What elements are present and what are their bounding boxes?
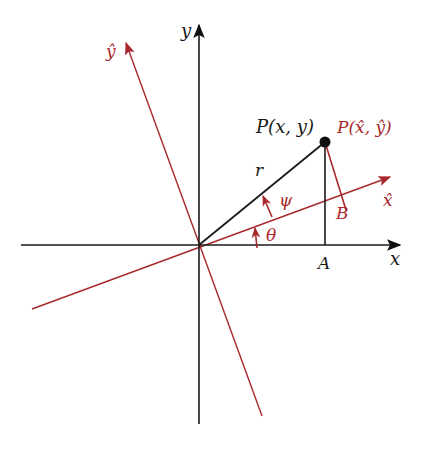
- x-axis-label: x: [390, 248, 400, 269]
- radius-label: r: [255, 160, 264, 180]
- radius-line: [199, 142, 325, 245]
- y-hat-axis-label: ŷ: [105, 41, 116, 61]
- psi-label: ψ: [279, 190, 293, 210]
- foot-B-label: B: [335, 203, 349, 223]
- x-hat-axis-label: x̂: [383, 190, 393, 210]
- rotation-of-axes-diagram: y x ŷ x̂ P(x, y) P(x̂, ŷ) r ψ θ B A: [0, 0, 422, 454]
- y-axis-label: y: [180, 20, 192, 41]
- theta-label: θ: [266, 225, 276, 245]
- point-rotated-label: P(x̂, ŷ): [336, 117, 392, 137]
- foot-A-label: A: [316, 253, 330, 273]
- point-P: [320, 137, 331, 148]
- y-hat-axis: [126, 43, 262, 416]
- point-original-label: P(x, y): [255, 116, 314, 137]
- x-hat-axis: [32, 177, 390, 309]
- psi-angle-marker: [263, 196, 272, 217]
